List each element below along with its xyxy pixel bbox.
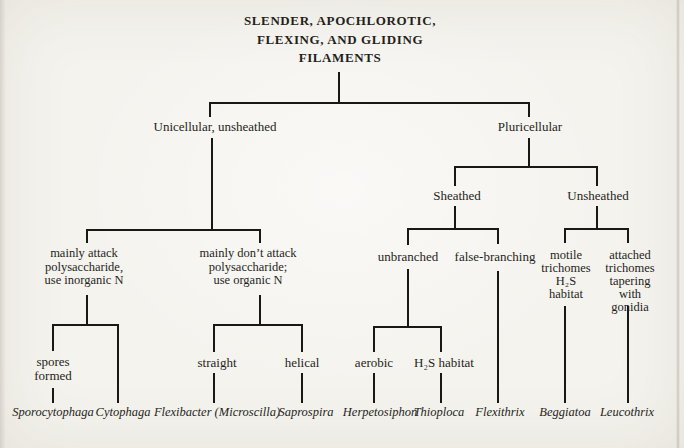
connector-pluricellular-split — [455, 167, 597, 186]
node-h2s-habitat: H₂S habitat — [414, 356, 474, 370]
connector-unsheathed-split — [565, 229, 628, 243]
node-unicellular-unsheathed: Unicellular, unsheathed — [154, 120, 277, 134]
genus-beggiatoa: Beggiatoa — [539, 405, 590, 419]
node-false-branching: false-branching — [455, 250, 536, 264]
genus-thioploca: Thioploca — [414, 405, 465, 419]
node-spores-formed: spores formed — [34, 355, 72, 383]
node-attached-trichomes: attached trichomes tapering with gonidia — [603, 249, 657, 314]
node-sheathed: Sheathed — [433, 189, 481, 203]
node-motile-trichomes: motile trichomes H₂S habitat — [541, 249, 590, 301]
node-mainly-dont-attack-polysaccharide: mainly don’t attack polysaccharide; use … — [200, 247, 297, 288]
node-aerobic: aerobic — [355, 356, 393, 370]
connector-mainly-dont-split — [214, 325, 302, 352]
genus-herpetosiphon: Herpetosiphon — [343, 405, 417, 419]
genus-flexithrix: Flexithrix — [475, 405, 524, 419]
node-unsheathed: Unsheathed — [567, 189, 628, 203]
page-edge-shadow-left — [0, 0, 6, 448]
genus-leucothrix: Leucothrix — [600, 405, 654, 419]
genus-saprospira: Saprospira — [278, 405, 333, 419]
genus-flexibacter-microscilla: Flexibacter (Microscilla) — [154, 405, 280, 419]
node-straight: straight — [198, 356, 237, 370]
taxonomy-tree-figure: SLENDER, APOCHLOROTIC, FLEXING, AND GLID… — [0, 0, 684, 448]
connector-root-split — [210, 103, 529, 117]
genus-sporocytophaga: Sporocytophaga — [12, 405, 93, 419]
node-pluricellular: Pluricellular — [498, 120, 562, 134]
connector-unbranched-split — [374, 327, 441, 352]
diagram-title: SLENDER, APOCHLOROTIC, FLEXING, AND GLID… — [244, 12, 436, 68]
node-mainly-attack-polysaccharide: mainly attack polysaccharide, use inorga… — [45, 247, 124, 288]
connector-unicellular-split — [87, 230, 260, 243]
node-helical: helical — [285, 356, 320, 370]
node-unbranched: unbranched — [378, 250, 439, 264]
connector-sheathed-split — [408, 229, 498, 245]
genus-cytophaga: Cytophaga — [96, 405, 151, 419]
page-edge-shadow-right — [676, 0, 680, 448]
